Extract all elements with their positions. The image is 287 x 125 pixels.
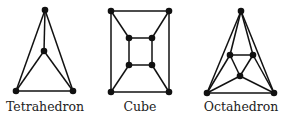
- graph-vertex: [126, 62, 133, 69]
- graph-vertex: [108, 89, 115, 96]
- graph-vertex: [271, 90, 278, 97]
- graph-vertex: [166, 8, 173, 15]
- graph-vertex: [149, 62, 156, 69]
- graph-edge: [44, 10, 45, 51]
- octahedron-label: Octahedron: [204, 99, 279, 114]
- graph-edge: [152, 11, 169, 38]
- graph-vertex: [227, 52, 234, 59]
- cube-graph: [108, 8, 173, 96]
- graph-edge: [240, 55, 253, 76]
- graph-edge: [16, 10, 45, 91]
- tetrahedron-label: Tetrahedron: [6, 99, 84, 114]
- graph-edge: [44, 51, 73, 91]
- graph-edge: [241, 11, 253, 55]
- graph-vertex: [149, 35, 156, 42]
- graph-vertex: [238, 8, 245, 15]
- graph-vertex: [41, 48, 48, 55]
- graph-vertex: [42, 7, 49, 14]
- octahedron-graph: [204, 8, 278, 97]
- graph-edge: [230, 55, 240, 76]
- graph-vertex: [250, 52, 257, 59]
- graph-vertex: [13, 88, 20, 95]
- graph-vertex: [108, 8, 115, 15]
- graph-edge: [16, 51, 44, 91]
- graph-vertex: [126, 35, 133, 42]
- cube-label: Cube: [123, 99, 156, 114]
- graph-edge: [207, 11, 241, 93]
- graph-vertex: [70, 88, 77, 95]
- graph-vertex: [237, 73, 244, 80]
- graph-vertex: [166, 89, 173, 96]
- graph-edge: [111, 11, 129, 38]
- tetrahedron-graph: [13, 7, 77, 95]
- graph-edge: [45, 10, 73, 91]
- graph-vertex: [204, 90, 211, 97]
- graph-edge: [152, 65, 169, 92]
- graph-edge: [241, 11, 274, 93]
- graph-edge: [111, 65, 129, 92]
